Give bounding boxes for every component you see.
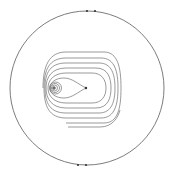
- boundary-mark: [94, 10, 96, 12]
- boundary-mark: [86, 10, 88, 12]
- orbit: [44, 58, 118, 118]
- cusp-point: [85, 87, 87, 89]
- boundary-mark: [77, 164, 79, 166]
- boundary-mark: [85, 164, 87, 166]
- phase-portrait-diagram: [0, 0, 172, 177]
- focus-point: [53, 87, 55, 89]
- orbit: [48, 73, 106, 103]
